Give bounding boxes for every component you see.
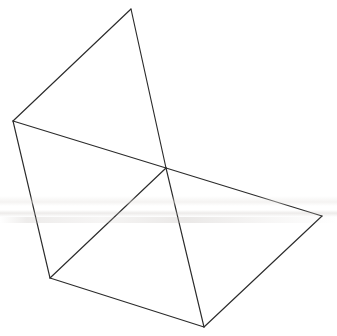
edge-left-to-bottom-left — [13, 121, 50, 278]
edge-apex-to-left — [13, 9, 131, 121]
edge-center-to-bottom — [166, 168, 204, 327]
vertex-bottom_left — [42, 270, 58, 286]
vertex-bottom — [196, 319, 212, 335]
edge-left-to-center — [13, 121, 166, 168]
edge-bottom-to-right — [204, 216, 322, 327]
vertex-center — [158, 160, 174, 176]
edge-apex-to-center — [131, 9, 166, 168]
edge-bottom-left-to-bottom — [50, 278, 204, 327]
vertex-left — [5, 113, 21, 129]
vertex-right — [314, 208, 330, 224]
vertex-apex — [123, 1, 139, 17]
edge-center-to-right — [166, 168, 322, 216]
edge-center-to-bottom-left — [50, 168, 166, 278]
figure-canvas — [0, 0, 337, 336]
